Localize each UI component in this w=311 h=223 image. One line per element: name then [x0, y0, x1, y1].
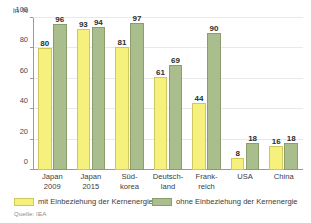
bar-value-label: 16 — [272, 138, 281, 146]
bar-value-label: 69 — [171, 57, 180, 65]
x-axis-category-label: Frank-reich — [187, 172, 226, 191]
bar-chart: in % 809693948197616944908181618 0204060… — [0, 0, 311, 223]
bar[interactable]: 93 — [77, 29, 91, 170]
bars-layer: 809693948197616944908181618 — [33, 18, 303, 170]
y-tick-mark-100 — [30, 17, 33, 18]
legend-label-nuclear-excluded: ohne Einbeziehung der Kernenergie — [176, 197, 298, 206]
bar[interactable]: 44 — [192, 103, 206, 170]
bar[interactable]: 80 — [38, 48, 52, 170]
legend-swatch-icon-nuclear-included — [14, 198, 34, 206]
y-tick-mark-80 — [30, 47, 33, 48]
x-axis-category-label: China — [264, 172, 303, 182]
bar-value-label: 61 — [156, 69, 165, 77]
x-axis-category-label: Japan2015 — [72, 172, 111, 191]
category-label-line2: korea — [110, 182, 149, 192]
bar-group: 4490 — [187, 18, 226, 170]
chart-legend: mit Einbeziehung der Kernenergie ohne Ei… — [14, 197, 304, 208]
bar[interactable]: 69 — [169, 65, 183, 170]
category-label-line2: 2009 — [33, 182, 72, 192]
category-label-line1: Frank- — [196, 172, 218, 181]
bar[interactable]: 96 — [53, 24, 67, 170]
y-tick-label-100: 100 — [15, 5, 28, 14]
bar-value-label: 44 — [195, 95, 204, 103]
bar[interactable]: 18 — [284, 143, 298, 170]
x-axis-category-label: USA — [226, 172, 265, 182]
y-tick-mark-20 — [30, 139, 33, 140]
x-axis-category-label: Süd-korea — [110, 172, 149, 191]
bar[interactable]: 61 — [154, 77, 168, 170]
bar-group: 6169 — [149, 18, 188, 170]
category-label-line1: Deutsch- — [153, 172, 183, 181]
category-label-line1: China — [274, 172, 294, 181]
x-axis-category-label: Deutsch-land — [149, 172, 188, 191]
bar-value-label: 94 — [94, 19, 103, 27]
bar-group: 8096 — [33, 18, 72, 170]
y-tick-mark-0 — [30, 169, 33, 170]
bar[interactable]: 16 — [269, 146, 283, 170]
bar-group: 9394 — [72, 18, 111, 170]
y-tick-label-80: 80 — [20, 35, 28, 44]
bar[interactable]: 94 — [92, 27, 106, 170]
y-tick-label-20: 20 — [20, 126, 28, 135]
y-tick-label-0: 0 — [24, 157, 28, 166]
bar[interactable]: 81 — [115, 47, 129, 170]
bar-value-label: 93 — [79, 21, 88, 29]
category-label-line2: 2015 — [72, 182, 111, 192]
source-note: Quelle: IEA — [14, 210, 46, 217]
bar-value-label: 97 — [132, 15, 141, 23]
bar[interactable]: 97 — [130, 23, 144, 170]
category-label-line2: land — [149, 182, 188, 192]
y-axis: 020406080100 — [33, 18, 34, 170]
legend-item-mit-kernenergie[interactable]: mit Einbeziehung der Kernenergie — [14, 197, 153, 206]
bar[interactable]: 90 — [207, 33, 221, 170]
y-tick-mark-60 — [30, 78, 33, 79]
bar-value-label: 8 — [235, 150, 239, 158]
legend-label-nuclear-included: mit Einbeziehung der Kernenergie — [38, 197, 153, 206]
legend-item-ohne-kernenergie[interactable]: ohne Einbeziehung der Kernenergie — [152, 197, 298, 206]
bar-value-label: 96 — [55, 16, 64, 24]
x-axis-category-label: Japan2009 — [33, 172, 72, 191]
bar-group: 1618 — [264, 18, 303, 170]
x-axis-category-labels: Japan2009Japan2015Süd-koreaDeutsch-landF… — [33, 172, 303, 194]
bar-value-label: 18 — [248, 135, 257, 143]
y-tick-label-60: 60 — [20, 65, 28, 74]
bar-group: 818 — [226, 18, 265, 170]
category-label-line1: USA — [237, 172, 253, 181]
bar-value-label: 18 — [287, 135, 296, 143]
category-label-line2: reich — [187, 182, 226, 192]
y-tick-label-40: 40 — [20, 96, 28, 105]
bar-group: 8197 — [110, 18, 149, 170]
category-label-line1: Japan — [42, 172, 63, 181]
bar[interactable]: 8 — [231, 158, 245, 170]
bar-value-label: 80 — [40, 40, 49, 48]
bar-value-label: 81 — [117, 39, 126, 47]
category-label-line1: Japan — [80, 172, 101, 181]
category-label-line1: Süd- — [121, 172, 137, 181]
bar[interactable]: 18 — [246, 143, 260, 170]
y-tick-mark-40 — [30, 108, 33, 109]
bar-value-label: 90 — [210, 25, 219, 33]
plot-area: 809693948197616944908181618 — [33, 18, 303, 170]
legend-swatch-icon-nuclear-excluded — [152, 198, 172, 206]
